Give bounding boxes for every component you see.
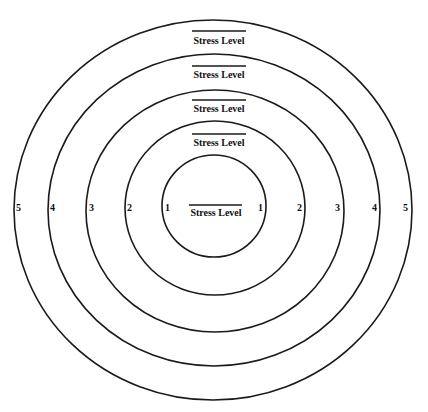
ring-title: Stress Level <box>193 137 244 148</box>
ring-right-number: 3 <box>335 202 340 213</box>
ring-left-number: 2 <box>127 202 132 213</box>
ring-right-number: 2 <box>297 202 302 213</box>
ring-title: Stress Level <box>193 103 244 114</box>
ring-circle <box>162 155 266 257</box>
ring-title: Stress Level <box>190 207 241 218</box>
ring-left-number: 1 <box>165 202 170 213</box>
ring-title: Stress Level <box>193 35 244 46</box>
ring-right-number: 1 <box>258 202 263 213</box>
stress-level-diagram: Stress Level 5 5 Stress Level 4 4 Stress… <box>0 0 428 412</box>
ring-left-number: 5 <box>16 202 21 213</box>
ring-right-number: 4 <box>372 202 377 213</box>
ring-right-number: 5 <box>403 202 408 213</box>
ring-title: Stress Level <box>193 69 244 80</box>
ring-level-1: Stress Level 1 1 <box>162 155 266 257</box>
ring-left-number: 4 <box>50 202 55 213</box>
ring-left-number: 3 <box>89 202 94 213</box>
